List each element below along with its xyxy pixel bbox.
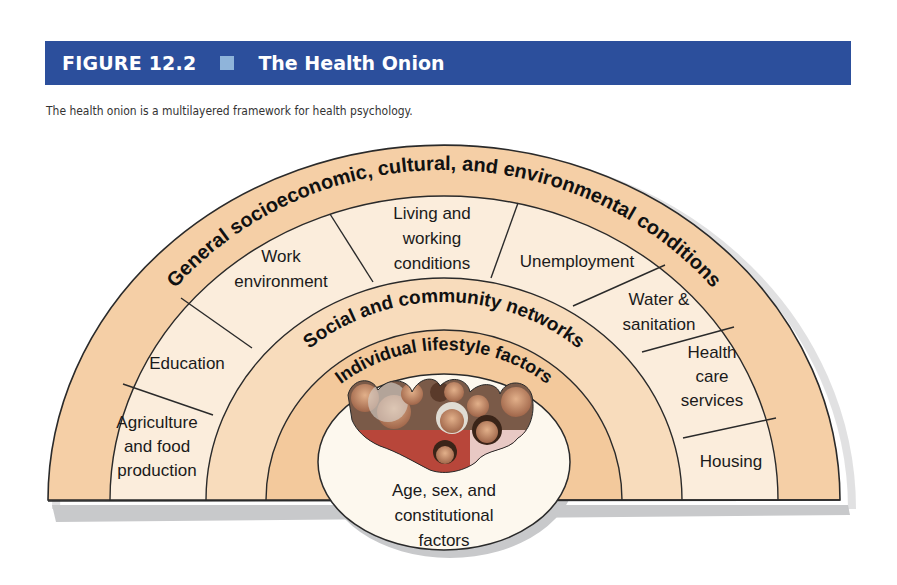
sector-agriculture: Agriculture and food production bbox=[116, 413, 197, 480]
svg-text:conditions: conditions bbox=[394, 254, 471, 273]
svg-text:care: care bbox=[695, 367, 728, 386]
svg-text:production: production bbox=[117, 461, 196, 480]
svg-text:sanitation: sanitation bbox=[623, 315, 696, 334]
health-onion-diagram: General socioeconomic, cultural, and env… bbox=[0, 0, 897, 585]
svg-text:constitutional: constitutional bbox=[394, 506, 493, 525]
svg-text:and food: and food bbox=[124, 437, 190, 456]
svg-text:factors: factors bbox=[418, 531, 469, 550]
svg-text:Health: Health bbox=[687, 343, 736, 362]
svg-text:Water &: Water & bbox=[629, 290, 690, 309]
svg-text:Education: Education bbox=[149, 354, 225, 373]
svg-text:Unemployment: Unemployment bbox=[520, 252, 635, 271]
svg-text:services: services bbox=[681, 391, 743, 410]
svg-text:Living and: Living and bbox=[393, 204, 471, 223]
sector-housing: Housing bbox=[700, 452, 762, 471]
svg-text:Work: Work bbox=[261, 247, 301, 266]
sector-education: Education bbox=[149, 354, 225, 373]
svg-text:environment: environment bbox=[234, 272, 328, 291]
svg-text:Housing: Housing bbox=[700, 452, 762, 471]
sector-living-working-conditions: Living and working conditions bbox=[393, 204, 471, 273]
sector-unemployment: Unemployment bbox=[520, 252, 635, 271]
svg-text:Agriculture: Agriculture bbox=[116, 413, 197, 432]
svg-text:Age, sex, and: Age, sex, and bbox=[392, 481, 496, 500]
svg-text:working: working bbox=[402, 229, 462, 248]
